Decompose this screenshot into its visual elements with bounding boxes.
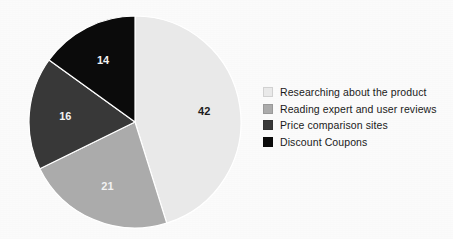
pie-chart: 42211614 — [28, 15, 242, 229]
legend-color-swatch — [263, 120, 273, 130]
legend-item-label: Discount Coupons — [280, 136, 367, 148]
legend-item[interactable]: Discount Coupons — [263, 134, 449, 151]
legend-item-label: Researching about the product — [280, 86, 427, 98]
legend-item[interactable]: Researching about the product — [263, 84, 449, 101]
legend-item-label: Reading expert and user reviews — [280, 103, 437, 115]
legend-item[interactable]: Reading expert and user reviews — [263, 101, 449, 118]
legend-color-swatch — [263, 104, 273, 114]
legend-color-swatch — [263, 137, 273, 147]
pie-slice-value-label: 21 — [101, 180, 113, 192]
legend-item-label: Price comparison sites — [280, 119, 388, 131]
pie-slice-value-label: 14 — [97, 54, 110, 66]
legend-color-swatch — [263, 87, 273, 97]
pie-slice-value-label: 42 — [198, 105, 210, 117]
legend-item[interactable]: Price comparison sites — [263, 117, 449, 134]
pie-chart-svg: 42211614 — [28, 15, 242, 229]
chart-page: 42211614 Researching about the productRe… — [0, 0, 453, 239]
chart-legend: Researching about the productReading exp… — [263, 84, 449, 150]
pie-slice-value-label: 16 — [59, 110, 71, 122]
